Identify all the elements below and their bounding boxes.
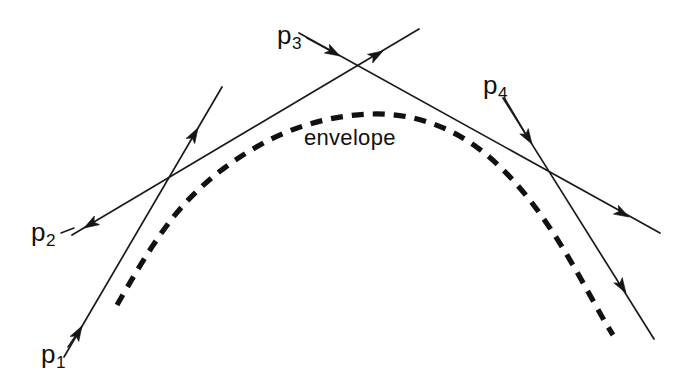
figure-canvas	[0, 0, 694, 386]
label-p2: p2	[31, 219, 55, 245]
leader-line-p2	[61, 228, 74, 233]
arrowhead-p3-upper	[324, 44, 342, 60]
leader-line-p3	[307, 38, 331, 51]
label-p4-base: p	[483, 70, 498, 100]
label-p1-sub: 1	[56, 352, 66, 372]
label-envelope: envelope	[304, 127, 396, 149]
label-p1-base: p	[41, 339, 56, 369]
label-p3: p3	[277, 22, 301, 48]
arrowhead-p2-left	[81, 216, 99, 232]
label-p1: p1	[41, 341, 65, 367]
envelope-figure: p1 p2 p3 p4 envelope	[0, 0, 694, 386]
label-p3-sub: 3	[292, 33, 302, 53]
label-p4-sub: 4	[498, 83, 508, 103]
label-p4: p4	[483, 72, 507, 98]
label-p2-base: p	[31, 217, 46, 247]
tangent-line-p1	[64, 87, 222, 357]
arrowhead-p1-upper	[186, 125, 202, 143]
arrowhead-p2-mid	[368, 47, 386, 63]
leader-line-p4	[505, 99, 528, 138]
label-p3-base: p	[277, 20, 292, 50]
label-p2-sub: 2	[46, 230, 56, 250]
